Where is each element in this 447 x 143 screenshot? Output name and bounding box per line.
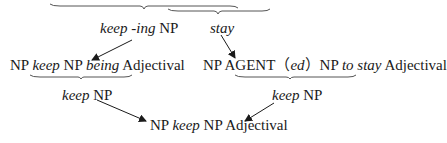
node-stay: stay	[210, 20, 234, 37]
brace-top-narrow	[168, 9, 270, 14]
brace-low-left	[30, 75, 132, 79]
node-agent-ed-to-stay-adjectival: NP AGENT（ed）NP to stay Adjectival	[203, 57, 447, 74]
node-keep-np-adjectival: NP keep NP Adjectival	[150, 117, 288, 134]
node-keep-np-right: keep NP	[272, 87, 322, 104]
brace-low-right	[235, 75, 356, 79]
brace-top-wide	[50, 4, 238, 9]
arrow-stay-to-agent	[221, 35, 235, 58]
node-keep-np-left: keep NP	[62, 87, 112, 104]
node-keep-ing-np: keep -ing NP	[100, 20, 178, 37]
node-keep-np-being-adjectival: NP keep NP being Adjectival	[10, 57, 185, 74]
